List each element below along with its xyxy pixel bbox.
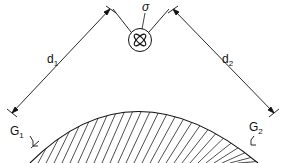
source-label: σ <box>142 0 150 14</box>
dimension-d1 <box>7 6 116 117</box>
source-leader-line <box>142 13 145 29</box>
connector-right <box>149 9 169 32</box>
gauge-g2-icon <box>251 136 256 145</box>
d2-label: d2 <box>222 52 234 68</box>
g1-label: G1 <box>10 124 24 140</box>
source-icon <box>129 29 152 52</box>
gauge-g1-icon <box>30 136 39 148</box>
g2-label: G2 <box>249 120 263 136</box>
diagram-canvas: σ d1 d2 G1 G2 <box>0 0 285 163</box>
earth-surface <box>30 103 284 163</box>
d1-label: d1 <box>47 52 59 68</box>
